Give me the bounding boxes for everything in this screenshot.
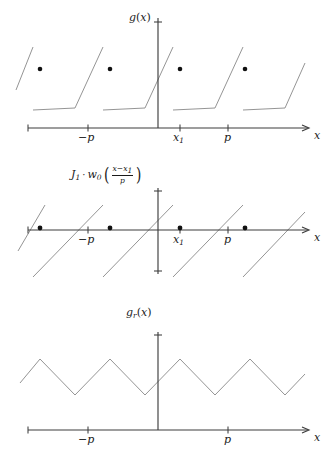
panel-1-tick-label-minus-p: −p bbox=[78, 132, 94, 143]
y-label-g: g bbox=[129, 11, 136, 24]
ramp-segment bbox=[173, 47, 243, 110]
panel-2-tick-label-minus-p: −p bbox=[78, 234, 94, 245]
numerator-x1-subscript: 1 bbox=[127, 166, 132, 175]
multiplication-dot: · bbox=[82, 170, 85, 180]
sawtooth-basis-plot: J1 · w0 ( x−x1 p ) −p x1 p x bbox=[0, 152, 328, 302]
sample-dot bbox=[108, 67, 113, 72]
sawtooth-curve bbox=[18, 205, 305, 277]
panel-2-tick-label-x1: x1 bbox=[173, 234, 184, 246]
fraction-denominator: p bbox=[119, 177, 126, 185]
ramp-segment bbox=[16, 47, 33, 90]
y-label-g: g bbox=[126, 306, 133, 319]
ramp-curve bbox=[16, 47, 305, 110]
panel-1-tick-label-p: p bbox=[224, 132, 231, 143]
J-subscript: 1 bbox=[75, 172, 80, 181]
ramp-function-plot: g(x) −p x1 p x bbox=[0, 0, 328, 152]
math-figure: g(x) −p x1 p x bbox=[0, 0, 328, 455]
w-subscript: 0 bbox=[97, 172, 102, 181]
ramp-segment bbox=[103, 47, 173, 110]
panel-1-tick-label-x1: x1 bbox=[173, 132, 184, 144]
formula-paren-open: ( bbox=[104, 167, 109, 183]
panel-3-tick-label-minus-p: −p bbox=[78, 434, 94, 445]
w-base: w bbox=[87, 168, 96, 181]
ramp-segment bbox=[243, 63, 305, 110]
panel-3-y-axis-label: gr(x) bbox=[126, 307, 151, 319]
triangular-wave-curve bbox=[20, 359, 305, 395]
function-w: w0 bbox=[87, 169, 101, 181]
argument-fraction: x−x1 p bbox=[112, 165, 134, 185]
sample-dot bbox=[243, 67, 248, 72]
y-label-paren-close: ) bbox=[147, 306, 151, 319]
panel-1-x-axis-label: x bbox=[314, 130, 320, 141]
panel-3-tick-label-p: p bbox=[224, 434, 231, 445]
sawtooth-segment bbox=[243, 212, 305, 277]
formula-paren-close: ) bbox=[136, 167, 141, 183]
coefficient-J: J1 bbox=[71, 169, 80, 181]
sample-dot bbox=[178, 226, 183, 231]
panel-3-x-axis-label: x bbox=[314, 432, 320, 443]
sawtooth-segment bbox=[103, 205, 173, 277]
panel-2-y-axis-label: J1 · w0 ( x−x1 p ) bbox=[71, 165, 143, 185]
sample-dots bbox=[38, 67, 248, 72]
panel-1-canvas bbox=[0, 0, 328, 152]
sample-dot bbox=[38, 67, 43, 72]
panel-2-canvas bbox=[0, 152, 328, 302]
sample-dot bbox=[38, 226, 43, 231]
sample-dot bbox=[108, 226, 113, 231]
panel-2-tick-label-p: p bbox=[224, 234, 231, 245]
triangular-wave-plot: gr(x) −p p x bbox=[0, 302, 328, 455]
sample-dot bbox=[243, 226, 248, 231]
panel-1-y-axis-label: g(x) bbox=[129, 12, 151, 23]
panel-2-x-axis-label: x bbox=[314, 232, 320, 243]
y-label-paren-close: ) bbox=[147, 11, 151, 24]
fraction-numerator: x−x1 bbox=[112, 165, 134, 175]
x1-subscript: 1 bbox=[179, 136, 184, 145]
panel-3-canvas bbox=[0, 302, 328, 455]
ramp-segment bbox=[33, 47, 103, 110]
x1-subscript: 1 bbox=[179, 238, 184, 247]
sample-dot bbox=[178, 67, 183, 72]
